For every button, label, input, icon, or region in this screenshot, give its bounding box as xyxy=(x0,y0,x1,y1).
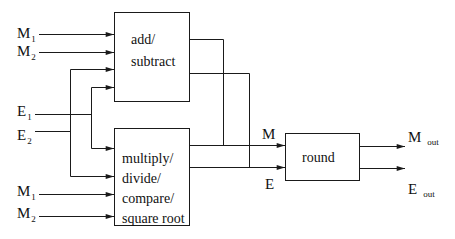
multiply-label: multiply/ xyxy=(122,151,173,166)
svg-text:M2: M2 xyxy=(17,205,36,224)
round-block: round xyxy=(286,134,360,181)
round-label: round xyxy=(302,150,335,165)
svg-text:E2: E2 xyxy=(17,127,32,146)
label-e-bus: E xyxy=(265,176,274,192)
svg-text:E1: E1 xyxy=(17,103,32,122)
divide-label: divide/ xyxy=(122,171,161,186)
multiply-divide-block: multiply/ divide/ compare/ square root xyxy=(115,129,190,227)
add-subtract-label-1: add/ xyxy=(131,32,155,47)
e2-to-add-arrow xyxy=(71,70,115,177)
label-bottom-m1: M1 xyxy=(17,183,36,202)
svg-text:Mout: Mout xyxy=(408,129,439,147)
svg-text:M2: M2 xyxy=(17,43,36,62)
square-root-label: square root xyxy=(122,211,185,226)
label-bottom-m2: M2 xyxy=(17,205,36,224)
label-e1: E1 xyxy=(17,103,32,122)
block-diagram: add/ subtract multiply/ divide/ compare/… xyxy=(0,0,455,239)
label-m-out: Mout xyxy=(408,129,439,147)
compare-label: compare/ xyxy=(122,191,174,206)
add-subtract-block: add/ subtract xyxy=(115,13,190,102)
svg-text:M1: M1 xyxy=(17,183,36,202)
label-m-bus: M xyxy=(262,126,275,142)
label-top-m2: M2 xyxy=(17,43,36,62)
add-subtract-label-2: subtract xyxy=(131,54,175,69)
e1-to-add-arrow xyxy=(92,88,115,149)
add-e-output-line xyxy=(190,74,250,168)
label-e2: E2 xyxy=(17,127,32,146)
add-m-output-line xyxy=(190,40,224,146)
svg-text:Eout: Eout xyxy=(408,181,435,199)
svg-text:M1: M1 xyxy=(17,25,36,44)
label-e-out: Eout xyxy=(408,181,435,199)
label-top-m1: M1 xyxy=(17,25,36,44)
